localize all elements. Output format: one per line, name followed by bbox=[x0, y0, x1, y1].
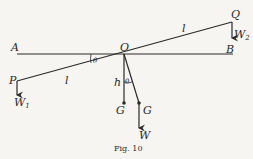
label-w2-sub: 2 bbox=[244, 34, 250, 42]
label-b: B bbox=[225, 43, 234, 56]
theta-arc-top bbox=[91, 54, 92, 63]
label-w2: W2 bbox=[234, 28, 250, 42]
label-p: P bbox=[8, 74, 17, 87]
balance-diagram: A B O P Q l l θ θ h G G W W1 W2 Fig. 10 bbox=[0, 0, 253, 159]
label-l-left: l bbox=[65, 74, 69, 87]
label-w: W bbox=[139, 129, 152, 142]
label-w1: W1 bbox=[14, 96, 30, 110]
label-w1-sub: 1 bbox=[25, 102, 29, 110]
figure-caption: Fig. 10 bbox=[114, 144, 143, 153]
label-a: A bbox=[10, 41, 19, 54]
label-theta-bottom: θ bbox=[125, 78, 130, 86]
label-o: O bbox=[120, 41, 129, 54]
label-l-right: l bbox=[182, 22, 186, 35]
label-g-right: G bbox=[143, 104, 152, 117]
label-h: h bbox=[114, 76, 121, 89]
label-q: Q bbox=[231, 8, 240, 21]
label-g-left: G bbox=[116, 104, 125, 117]
label-theta-top: θ bbox=[93, 57, 98, 65]
